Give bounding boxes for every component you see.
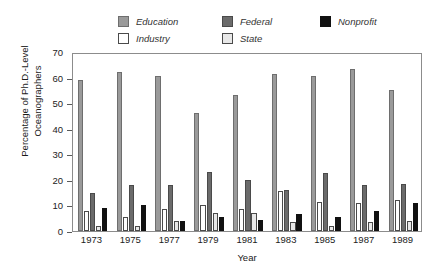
bar-education-1975: [117, 72, 122, 231]
x-axis-tick-label: 1975: [111, 234, 150, 245]
bar-state-1985: [329, 226, 334, 231]
bar-education-1973: [78, 80, 83, 231]
bar-group-1977: [151, 54, 190, 231]
y-axis-tick-label: 30: [52, 149, 63, 160]
legend-swatch-icon: [118, 16, 129, 27]
bar-group-1989: [384, 54, 423, 231]
legend-row: EducationFederalNonprofit: [118, 14, 418, 29]
bar-group-1981: [229, 54, 268, 231]
bar-nonprofit-1977: [180, 221, 185, 231]
bar-education-1987: [350, 69, 355, 231]
legend-label: Education: [136, 16, 178, 27]
legend-item-education[interactable]: Education: [118, 14, 178, 28]
bar-state-1973: [96, 226, 101, 231]
bar-industry-1987: [356, 203, 361, 231]
bar-federal-1983: [284, 190, 289, 231]
bar-federal-1979: [207, 172, 212, 231]
bar-federal-1985: [323, 173, 328, 231]
plot-frame: [72, 53, 422, 232]
bar-group-1985: [306, 54, 345, 231]
legend-item-federal[interactable]: Federal: [222, 14, 272, 28]
bar-federal-1977: [168, 185, 173, 231]
y-axis-tick-label: 20: [52, 175, 63, 186]
legend-swatch-icon: [118, 33, 129, 44]
bar-group-1983: [267, 54, 306, 231]
x-axis-tick-label: 1983: [266, 234, 305, 245]
legend-label: State: [240, 33, 262, 44]
bar-state-1989: [407, 221, 412, 231]
bar-nonprofit-1985: [335, 217, 340, 231]
x-axis-tick-label: 1979: [189, 234, 228, 245]
bar-federal-1989: [401, 184, 406, 231]
x-axis-tick-label: 1985: [305, 234, 344, 245]
legend-label: Industry: [136, 33, 170, 44]
bar-federal-1975: [129, 185, 134, 231]
bar-nonprofit-1989: [413, 203, 418, 231]
y-axis-title-line2: Oceanographers: [31, 16, 44, 186]
bar-federal-1973: [90, 193, 95, 231]
bar-state-1975: [135, 226, 140, 231]
y-axis-tick: 10: [0, 206, 72, 207]
bar-industry-1975: [123, 217, 128, 231]
bar-group-1975: [112, 54, 151, 231]
legend-item-state[interactable]: State: [222, 31, 262, 45]
y-axis-title: Percentage of Ph.D.-Level Oceanographers: [18, 16, 44, 186]
bar-federal-1987: [362, 185, 367, 231]
bar-education-1981: [233, 95, 238, 231]
bar-group-1979: [190, 54, 229, 231]
bar-federal-1981: [245, 180, 250, 231]
bar-industry-1989: [395, 200, 400, 231]
legend-swatch-icon: [222, 33, 233, 44]
y-axis-title-line1: Percentage of Ph.D.-Level: [18, 16, 31, 186]
y-axis-tick-label: 50: [52, 98, 63, 109]
x-axis-title: Year: [72, 252, 422, 263]
bar-nonprofit-1975: [141, 205, 146, 231]
x-axis-tick-label: 1981: [228, 234, 267, 245]
bar-state-1979: [213, 213, 218, 231]
x-axis-tick-label: 1973: [72, 234, 111, 245]
legend-swatch-icon: [320, 16, 331, 27]
legend-row: IndustryState: [118, 31, 418, 46]
bar-group-1973: [73, 54, 112, 231]
legend-item-industry[interactable]: Industry: [118, 31, 170, 45]
bar-industry-1985: [317, 202, 322, 231]
x-axis-tick-labels: 197319751977197919811983198519871989: [72, 234, 422, 248]
legend-label: Federal: [240, 16, 272, 27]
y-axis-tick-label: 0: [58, 226, 63, 237]
bar-nonprofit-1979: [219, 217, 224, 231]
y-axis-tick-label: 70: [52, 47, 63, 58]
y-axis-tick-label: 40: [52, 124, 63, 135]
y-axis-tick-label: 60: [52, 73, 63, 84]
bar-state-1987: [368, 222, 373, 231]
plot-area: [73, 54, 421, 231]
x-axis-tick-label: 1987: [344, 234, 383, 245]
x-axis-tick-label: 1989: [383, 234, 422, 245]
legend-item-nonprofit[interactable]: Nonprofit: [320, 14, 377, 28]
bar-education-1983: [272, 74, 277, 231]
bar-state-1983: [290, 222, 295, 231]
bar-education-1985: [311, 76, 316, 231]
bar-education-1977: [155, 76, 160, 231]
bar-nonprofit-1983: [296, 214, 301, 231]
bar-state-1981: [251, 213, 256, 231]
bar-group-1987: [345, 54, 384, 231]
bar-state-1977: [174, 221, 179, 231]
bar-industry-1979: [200, 205, 205, 231]
bar-nonprofit-1981: [258, 220, 263, 232]
legend-label: Nonprofit: [338, 16, 377, 27]
bar-industry-1983: [278, 191, 283, 231]
bar-nonprofit-1973: [102, 208, 107, 231]
bar-industry-1977: [162, 209, 167, 231]
bar-industry-1973: [84, 211, 89, 231]
y-axis-tick: 0: [0, 232, 72, 233]
y-axis-tick-label: 10: [52, 200, 63, 211]
bar-chart-figure: EducationFederalNonprofitIndustryState 7…: [0, 0, 442, 277]
chart-legend: EducationFederalNonprofitIndustryState: [118, 14, 418, 48]
bar-education-1989: [389, 90, 394, 231]
legend-swatch-icon: [222, 16, 233, 27]
bar-industry-1981: [239, 209, 244, 231]
bar-education-1979: [194, 113, 199, 231]
bar-nonprofit-1987: [374, 211, 379, 231]
x-axis-tick-label: 1977: [150, 234, 189, 245]
y-axis-tick-mark: [67, 232, 72, 233]
